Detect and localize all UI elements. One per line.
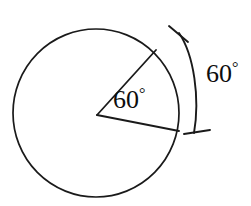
radius-lower-line <box>97 115 179 131</box>
arc-measure-label: 60° <box>206 60 238 87</box>
circle-outline <box>13 29 179 197</box>
arc-measure-value: 60 <box>206 59 232 88</box>
central-angle-degree-icon: ° <box>139 85 145 102</box>
arc-measure-degree-icon: ° <box>232 59 238 76</box>
geometry-figure: 60° 60° <box>0 0 251 206</box>
arc-tick-top <box>169 26 188 42</box>
central-angle-value: 60 <box>113 85 139 114</box>
central-angle-label: 60° <box>113 86 145 113</box>
arc-tick-bottom <box>184 130 210 134</box>
arc-measure-bracket <box>179 33 196 133</box>
